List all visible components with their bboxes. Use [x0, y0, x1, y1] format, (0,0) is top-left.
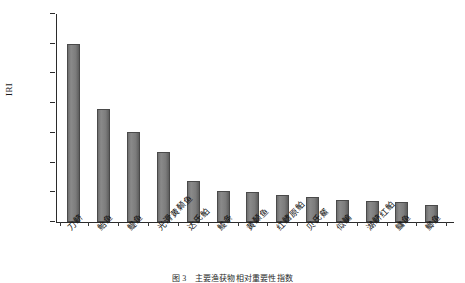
- y-tick-mark: [50, 221, 55, 222]
- bar-series: [56, 14, 454, 222]
- bar: [67, 44, 80, 222]
- y-tick-mark: [50, 191, 55, 192]
- y-tick-mark: [50, 43, 55, 44]
- bar: [97, 109, 110, 222]
- x-axis-labels: 刀鲚鲐鱼鳀鱼光滑黄颡鱼达氏鲌鮻条黄颡鱼红鳍原鲌贝氏䱗似鳊湖鲚红鲌鳙鱼鲫鱼: [56, 226, 454, 278]
- bar: [127, 132, 140, 222]
- y-axis-title: IRI: [4, 83, 14, 96]
- y-tick-mark: [50, 102, 55, 103]
- figure-caption: 图 3 主要渔获物相对重要性指数: [0, 272, 465, 283]
- bar-chart: IRI 05001 0001 5002 0002 5003 0003 500 刀…: [0, 0, 465, 283]
- y-tick-mark: [50, 72, 55, 73]
- y-tick-mark: [50, 162, 55, 163]
- y-tick-mark: [50, 132, 55, 133]
- y-tick-mark: [50, 13, 55, 14]
